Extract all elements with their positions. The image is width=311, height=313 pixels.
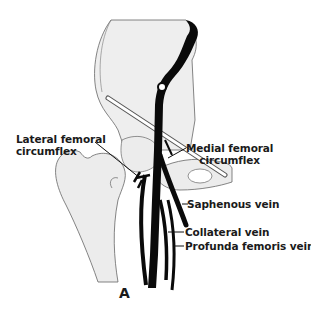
femur	[56, 150, 126, 282]
iliac-bone	[95, 20, 197, 150]
collateral-vein	[160, 200, 167, 280]
label-medial-femoral-circumflex: Medial femoral circumflex	[186, 142, 273, 166]
figure-label: A	[119, 285, 130, 301]
lateral-branch	[141, 175, 146, 285]
label-lateral-femoral-circumflex: Lateral femoral circumflex	[16, 133, 106, 157]
label-saphenous-vein: Saphenous vein	[187, 198, 279, 210]
obturator-foramen	[188, 169, 212, 183]
label-profunda-femoris-vein: Profunda femoris vein	[185, 240, 311, 252]
anatomy-diagram: Lateral femoral circumflex Medial femora…	[0, 0, 311, 313]
profunda-femoris-vein	[168, 200, 174, 290]
label-collateral-vein: Collateral vein	[185, 226, 269, 238]
